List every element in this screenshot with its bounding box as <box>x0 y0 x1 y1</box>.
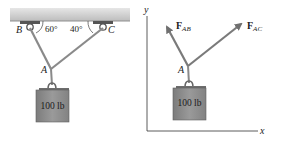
right-figure: y x FAB FAC A 100 lb <box>143 4 265 136</box>
weight-block: 100 lb <box>36 83 69 122</box>
cable-ab <box>30 28 51 69</box>
force-arrow-ac <box>188 24 241 66</box>
left-figure: B C 60° 40° A 100 lb <box>10 8 130 122</box>
label-a-right: A <box>177 64 185 75</box>
label-c: C <box>108 24 115 35</box>
label-a: A <box>40 64 48 75</box>
weight-label: 100 lb <box>40 101 64 111</box>
x-axis-label: x <box>259 125 265 136</box>
cable-ac <box>51 28 103 69</box>
angle-label-c: 40° <box>70 24 83 34</box>
diagram-canvas: B C 60° 40° A 100 lb y x FAB FAC A <box>0 0 281 141</box>
angle-arc-c <box>88 21 93 33</box>
weight-block-right: 100 lb <box>173 81 206 120</box>
ceiling <box>10 8 130 21</box>
force-label-ac: FAC <box>247 20 262 33</box>
force-label-ab: FAB <box>176 20 191 33</box>
weight-label-right: 100 lb <box>177 98 201 108</box>
y-axis-label: y <box>143 4 149 15</box>
label-b: B <box>16 24 22 35</box>
angle-label-b: 60° <box>45 24 58 34</box>
